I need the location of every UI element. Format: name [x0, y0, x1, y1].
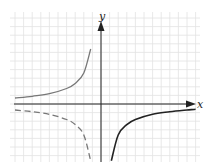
grid-lines	[10, 12, 200, 162]
y-axis-label: y	[98, 10, 106, 23]
lower-left-branch-curve	[15, 110, 91, 161]
hyperbola-graph: x y	[0, 0, 208, 168]
x-axis-arrow-icon	[186, 101, 196, 108]
lower-right-branch-curve	[111, 109, 195, 161]
upper-left-branch-curve	[15, 49, 91, 98]
axes: x y	[14, 10, 204, 162]
x-axis-label: x	[197, 98, 204, 111]
curves	[15, 49, 196, 161]
